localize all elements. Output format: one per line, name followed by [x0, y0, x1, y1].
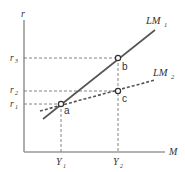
svg-text:1: 1 [63, 163, 66, 169]
x-tick-y1: Y 1 [56, 156, 66, 169]
x-axis-label: M [168, 146, 178, 157]
svg-text:1: 1 [15, 104, 18, 110]
svg-text:Y: Y [56, 156, 63, 167]
y-axis-label: r [21, 8, 25, 19]
point-c-marker [115, 88, 120, 93]
y-tick-r1: r 1 [10, 99, 18, 110]
point-a-marker [58, 101, 63, 106]
point-b-label: b [122, 61, 128, 72]
svg-text:r: r [10, 99, 14, 109]
lm-diagram: a b c r M r 3 r 2 r 1 Y 1 Y 2 LM 1 LM 2 [0, 0, 185, 172]
lm1-label: LM 1 [145, 15, 167, 28]
svg-text:2: 2 [171, 73, 175, 80]
lm2-label: LM 2 [152, 67, 175, 80]
point-b-marker [115, 55, 120, 60]
y-tick-r2: r 2 [10, 85, 18, 96]
guide-lines [24, 58, 118, 152]
point-a-label: a [64, 105, 70, 116]
point-c-label: c [122, 93, 127, 104]
svg-text:r: r [10, 85, 14, 95]
svg-text:Y: Y [113, 156, 120, 167]
svg-text:3: 3 [14, 58, 18, 64]
y-tick-r3: r 3 [10, 53, 18, 64]
svg-text:1: 1 [164, 21, 167, 28]
x-tick-y2: Y 2 [113, 156, 123, 169]
svg-text:2: 2 [15, 90, 18, 96]
svg-text:2: 2 [120, 163, 123, 169]
lm2-curve [40, 80, 155, 111]
svg-text:r: r [10, 53, 14, 63]
svg-text:LM: LM [145, 15, 162, 26]
svg-text:LM: LM [152, 67, 169, 78]
